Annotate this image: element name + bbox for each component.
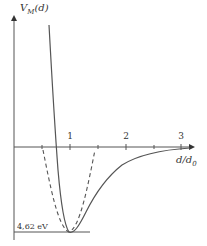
well-depth-label: 4,62 eV [17,222,48,231]
tick-label-1: 1 [67,131,73,141]
y-axis-label: VM(d) [20,2,49,16]
x-axis-label: d/d0 [176,154,197,168]
morse-potential-chart [0,0,207,246]
tick-label-2: 2 [123,131,129,141]
morse-curve [49,25,190,232]
tick-label-3: 3 [178,131,184,141]
harmonic-curve [43,150,95,232]
